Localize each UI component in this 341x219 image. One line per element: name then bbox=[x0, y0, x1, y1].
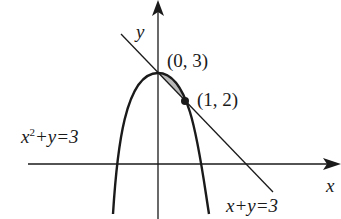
point-0-3-label: (0, 3) bbox=[167, 51, 208, 70]
point-1-2-label: (1, 2) bbox=[197, 90, 238, 109]
parabola-label: x2+y=3 bbox=[21, 127, 79, 146]
diagram-canvas: y x (0, 3) (1, 2) x2+y=3 x+y=3 bbox=[0, 0, 341, 219]
graph-svg bbox=[0, 0, 341, 219]
parabola-x2-plus-y-eq-3 bbox=[113, 73, 209, 214]
point-1-2-marker bbox=[181, 97, 189, 105]
parabola-label-rest: +y=3 bbox=[35, 126, 79, 147]
line-label: x+y=3 bbox=[226, 196, 278, 215]
x-axis-label: x bbox=[326, 176, 334, 195]
y-axis-label: y bbox=[136, 22, 144, 41]
